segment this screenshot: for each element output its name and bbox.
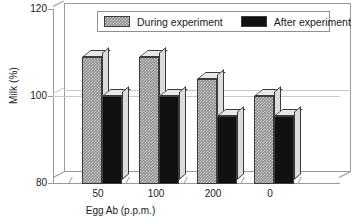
x-tick-200: 200 (191, 188, 235, 199)
legend-item-during: During experiment (104, 16, 223, 28)
bar-during-200 (197, 79, 217, 184)
bar-side-face (237, 106, 244, 180)
bar-during-100 (139, 57, 159, 184)
legend-item-after: After experiment (241, 16, 351, 28)
bar-side-face (294, 106, 301, 180)
bar-front-face (102, 96, 122, 184)
legend: During experiment After experiment (97, 11, 330, 32)
plot-frame-depth-right (339, 172, 350, 178)
plot-frame-top (64, 3, 351, 4)
bar-after-100 (159, 96, 179, 184)
bar-side-face (179, 86, 186, 180)
bar-after-200 (217, 116, 237, 184)
plot-frame-depth-left (53, 172, 64, 178)
x-tick-0: 0 (248, 188, 292, 199)
y-tick-120: 120 (7, 3, 47, 14)
bar-during-50 (82, 57, 102, 184)
bar-front-face (254, 96, 274, 184)
legend-label-during: During experiment (137, 16, 223, 28)
x-axis-title-text: Egg Ab (p.p.m.) (86, 205, 155, 216)
plot-frame-back-left (64, 3, 65, 171)
bar-after-0 (274, 116, 294, 184)
bar-front-face (274, 116, 294, 184)
plot-frame-depth-topleft (53, 1, 64, 7)
bar-side-face (122, 86, 129, 180)
legend-swatch-during-icon (104, 16, 130, 27)
bar-front-face (217, 116, 237, 184)
bar-front-face (82, 57, 102, 184)
gridline-100-depth (53, 88, 64, 94)
x-axis-title: Egg Ab (p.p.m.) (0, 205, 357, 216)
bar-front-face (139, 57, 159, 184)
bar-chart: 120 100 80 Milk (%) (0, 0, 357, 224)
bar-front-face (159, 96, 179, 184)
legend-label-after: After experiment (274, 16, 351, 28)
y-axis-title: Milk (%) (8, 51, 19, 121)
x-tick-100: 100 (134, 188, 178, 199)
plot-frame-right (350, 3, 351, 171)
y-tick-80: 80 (7, 177, 47, 188)
bar-front-face (197, 79, 217, 184)
bar-after-50 (102, 96, 122, 184)
bar-during-0 (254, 96, 274, 184)
legend-swatch-after-icon (241, 16, 267, 27)
x-tick-50: 50 (76, 188, 120, 199)
